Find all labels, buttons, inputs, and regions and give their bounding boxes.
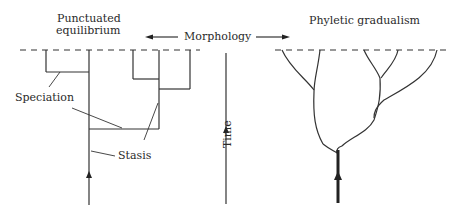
time-label: Time [222, 120, 234, 148]
phyletic-gradualism-title: Phyletic gradualism [309, 15, 420, 27]
stasis-leader [91, 151, 115, 156]
speciation-label: Speciation [15, 92, 74, 104]
time-direction-arrow-right [334, 171, 342, 180]
speciation-leader [144, 103, 158, 140]
phyletic-gradualism-tree [275, 50, 450, 153]
speciation-leader [49, 72, 60, 87]
time-direction-arrow-left [86, 171, 92, 178]
punctuated-title-line2: equilibrium [56, 25, 121, 37]
punctuated-equilibrium-tree [20, 50, 200, 205]
speciation-leader [72, 108, 122, 128]
stasis-label: Stasis [118, 150, 151, 162]
morphology-label: Morphology [184, 31, 251, 43]
